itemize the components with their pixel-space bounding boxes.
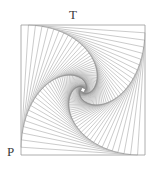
nested-square: [48, 53, 118, 127]
nested-square: [73, 79, 93, 100]
nested-square: [31, 35, 136, 145]
nested-square: [40, 45, 126, 135]
nested-square: [27, 31, 140, 149]
whirl-diagram: [0, 0, 158, 169]
nested-square: [38, 43, 128, 138]
nested-square: [70, 76, 96, 104]
nested-square: [21, 25, 145, 155]
nested-square: [33, 38, 133, 143]
nested-square: [29, 33, 138, 147]
nested-square: [45, 50, 120, 129]
nested-square: [25, 29, 141, 151]
nested-square: [21, 25, 145, 155]
diagram-canvas: T P: [0, 0, 158, 169]
nested-square: [60, 65, 107, 114]
nested-square: [72, 78, 95, 102]
